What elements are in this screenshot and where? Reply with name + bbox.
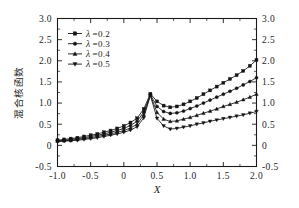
data-point-marker (215, 85, 218, 88)
data-point-marker (202, 93, 205, 96)
data-point-marker (129, 121, 132, 124)
data-point-marker (182, 103, 185, 106)
data-point-marker (175, 105, 178, 108)
y-tick-label-right: -0.5 (262, 162, 279, 172)
y-tick-label-left: 0 (47, 141, 52, 151)
y-tick-label-right: 0 (262, 141, 267, 151)
data-series (56, 58, 258, 141)
data-point-marker (162, 110, 165, 113)
x-axis-tick-labels: -1.0-0.500.51.01.52.0 (49, 171, 263, 181)
data-point-marker (248, 64, 251, 67)
data-point-marker (228, 77, 231, 80)
data-series (56, 76, 258, 142)
series-line (58, 78, 257, 141)
data-point-marker (215, 96, 218, 99)
data-point-marker (73, 42, 77, 46)
data-point-marker (242, 83, 245, 86)
y-tick-label-left: 3.0 (39, 14, 52, 24)
y-tick-label-right: 2.5 (262, 35, 275, 45)
y-tick-label-left: -0.5 (35, 162, 52, 172)
x-tick-label: 0.5 (150, 171, 163, 181)
y-tick-label-left: 1.5 (39, 77, 52, 87)
data-point-marker (155, 105, 158, 108)
data-point-marker (195, 96, 198, 99)
y-axis-left-tick-labels: -0.500.51.01.52.02.53.0 (35, 14, 52, 172)
legend-lambda-symbol: λ (85, 29, 90, 39)
data-point-marker (195, 104, 198, 107)
legend-lambda-symbol: λ (85, 59, 90, 69)
data-point-marker (255, 58, 258, 61)
y-tick-label-right: 0.5 (262, 120, 275, 130)
legend-entry: λ=0.5 (68, 59, 110, 69)
legend-entry: λ=0.2 (68, 29, 110, 39)
x-tick-label: -0.5 (82, 171, 99, 181)
x-tick-label: 0 (121, 171, 126, 181)
y-tick-label-left: 2.0 (39, 56, 52, 66)
legend-entry: λ=0.3 (68, 39, 110, 49)
data-point-marker (202, 101, 205, 104)
data-point-marker (189, 107, 192, 110)
data-point-marker (235, 74, 238, 77)
data-point-marker (248, 80, 251, 83)
data-point-marker (242, 69, 245, 72)
data-point-marker (182, 110, 185, 113)
line-chart: -1.0-0.500.51.01.52.0 -0.500.51.01.52.02… (0, 0, 299, 208)
y-tick-label-left: 2.5 (39, 35, 52, 45)
x-tick-label: -1.0 (49, 171, 66, 181)
y-tick-label-right: 1.5 (262, 77, 275, 87)
legend-entry-label: =0.3 (93, 39, 111, 49)
data-point-marker (235, 87, 238, 90)
legend-entry-label: =0.4 (93, 49, 111, 59)
data-point-marker (208, 99, 211, 102)
y-tick-label-right: 3.0 (262, 14, 275, 24)
legend-entry-label: =0.2 (93, 29, 111, 39)
data-point-marker (73, 32, 76, 35)
x-axis-title: X (153, 183, 162, 195)
data-point-marker (156, 100, 159, 103)
y-tick-label-right: 2.0 (262, 56, 275, 66)
legend-entry: λ=0.4 (68, 49, 110, 59)
data-point-marker (255, 76, 258, 79)
y-axis-right-tick-labels: -0.500.51.01.52.02.53.0 (262, 14, 279, 172)
chart-figure: -1.0-0.500.51.01.52.0 -0.500.51.01.52.02… (0, 0, 299, 208)
data-series-group (56, 58, 259, 143)
y-axis-left-ticks (58, 19, 63, 167)
y-axis-right-ticks (252, 19, 257, 167)
chart-legend: λ=0.2λ=0.3λ=0.4λ=0.5 (68, 29, 110, 70)
x-tick-label: 1.0 (184, 171, 197, 181)
data-point-marker (162, 104, 165, 107)
y-tick-label-left: 1.0 (39, 98, 52, 108)
data-point-marker (169, 106, 172, 109)
legend-entry-label: =0.5 (93, 59, 111, 69)
y-tick-label-right: 1.0 (262, 98, 275, 108)
data-point-marker (189, 100, 192, 103)
data-point-marker (175, 111, 178, 114)
data-point-marker (209, 89, 212, 92)
data-point-marker (228, 90, 231, 93)
x-tick-label: 2.0 (250, 171, 263, 181)
y-tick-label-left: 0.5 (39, 120, 52, 130)
data-point-marker (222, 81, 225, 84)
legend-lambda-symbol: λ (85, 39, 90, 49)
y-axis-title: 混合核函数 (13, 66, 24, 119)
data-point-marker (169, 112, 172, 115)
data-point-marker (222, 93, 225, 96)
x-tick-label: 1.5 (217, 171, 230, 181)
legend-lambda-symbol: λ (85, 49, 90, 59)
